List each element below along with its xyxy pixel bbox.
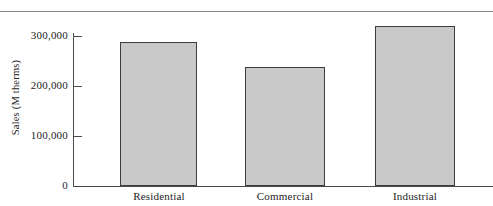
y-tick-mark-300000 bbox=[74, 36, 82, 37]
bar-commercial bbox=[245, 67, 325, 186]
bar-chart-figure: 300,000 200,000 100,000 0 Residential Co… bbox=[0, 0, 493, 206]
bar-industrial bbox=[375, 26, 455, 186]
y-tick-label-0: 0 bbox=[0, 180, 68, 191]
bar-residential bbox=[120, 42, 197, 187]
x-axis-line bbox=[73, 186, 493, 187]
x-label-commercial: Commercial bbox=[234, 190, 336, 203]
y-tick-mark-100000 bbox=[74, 136, 82, 137]
y-axis-line bbox=[73, 33, 74, 187]
x-label-residential: Residential bbox=[108, 190, 210, 203]
y-axis-title: Sales (M therms) bbox=[10, 38, 21, 158]
plot-area: 300,000 200,000 100,000 0 Residential Co… bbox=[0, 0, 493, 206]
x-label-industrial: Industrial bbox=[364, 190, 466, 203]
y-tick-mark-200000 bbox=[74, 86, 82, 87]
y-tick-0: 0 bbox=[0, 186, 82, 187]
